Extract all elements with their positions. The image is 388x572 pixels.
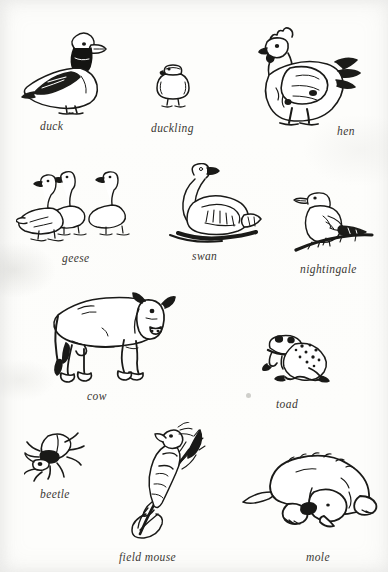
field-mouse-illustration — [118, 422, 210, 540]
duckling-illustration — [152, 60, 194, 112]
caption-mole: mole — [306, 551, 330, 563]
hen-illustration — [250, 26, 380, 126]
caption-toad: toad — [276, 398, 298, 410]
caption-geese: geese — [62, 252, 90, 264]
caption-duck: duck — [40, 120, 63, 132]
swan-illustration — [160, 163, 264, 243]
geese-illustration — [16, 170, 138, 242]
caption-cow: cow — [87, 390, 107, 402]
caption-swan: swan — [192, 250, 217, 262]
mole-illustration — [236, 448, 381, 530]
cow-illustration — [42, 283, 177, 383]
ink-speck — [246, 393, 251, 398]
beetle-illustration — [24, 430, 96, 482]
caption-beetle: beetle — [40, 488, 70, 500]
nightingale-illustration — [290, 190, 385, 252]
caption-nightingale: nightingale — [300, 263, 357, 275]
caption-field-mouse: field mouse — [119, 551, 176, 563]
toad-illustration — [262, 330, 334, 388]
caption-hen: hen — [337, 125, 355, 137]
duck-illustration — [18, 28, 123, 116]
illustration-plate: duck duckling — [0, 0, 388, 572]
caption-duckling: duckling — [151, 122, 194, 134]
